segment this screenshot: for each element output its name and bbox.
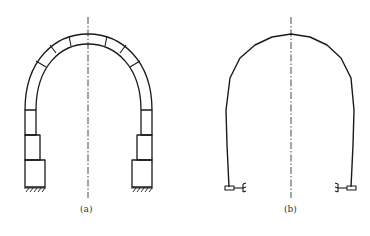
figure-a-arch	[24, 17, 153, 198]
figure-a-inner-arch	[36, 44, 141, 110]
figure-b-caption: (b)	[284, 204, 297, 214]
figure-a-right-ground-hatch-icon	[131, 188, 153, 192]
figure-a-left-ground-hatch-icon	[24, 188, 46, 192]
figure-b-left-support-icon	[225, 183, 246, 192]
diagram-canvas	[0, 0, 370, 236]
figure-b-arch	[225, 17, 356, 198]
figure-b-right-support-icon	[335, 183, 356, 192]
figure-a-right-column	[132, 110, 152, 187]
figure-a-left-column	[25, 110, 45, 187]
figure-a-caption: (a)	[80, 204, 92, 214]
figure-b-arch-line	[226, 34, 354, 187]
